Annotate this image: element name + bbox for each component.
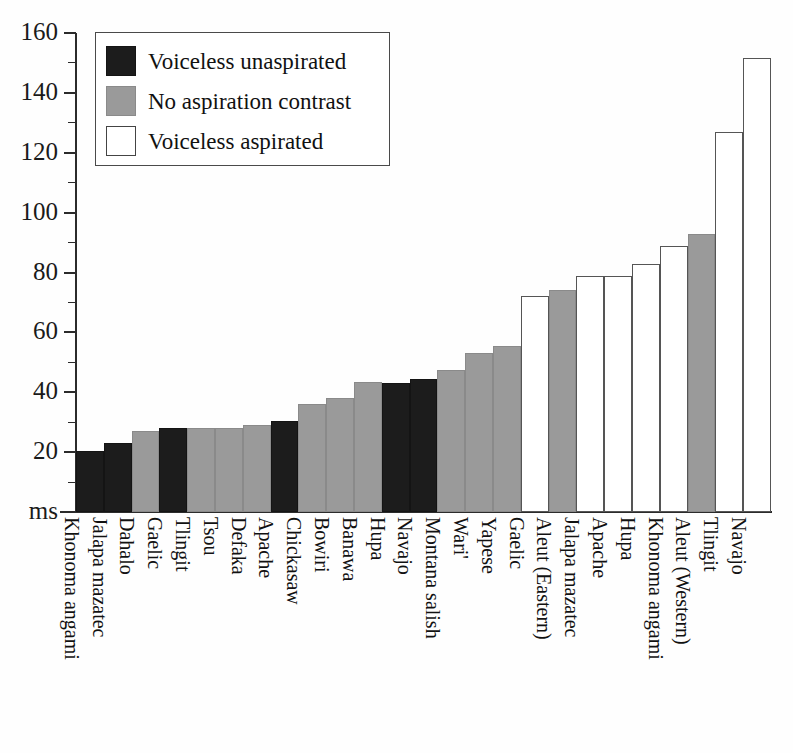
y-tick-60 <box>64 331 76 333</box>
x-axis-tick-label: Montana salish <box>423 517 443 639</box>
bar <box>326 398 354 512</box>
y-tick-label: ms <box>14 498 58 523</box>
y-tick-label: 140 <box>14 79 58 104</box>
x-axis-tick-label: Apache <box>590 517 610 578</box>
bar <box>410 379 438 512</box>
x-axis-labels: Khonoma angamiJalapa mazatecDahaloGaelic… <box>76 515 771 753</box>
bar <box>688 234 716 512</box>
bar <box>715 132 743 512</box>
bar <box>493 346 521 512</box>
y-minor-tick-110 <box>68 182 76 183</box>
x-axis-tick-label: Gaelic <box>506 517 526 569</box>
chart-figure: ms20406080100120140160 Khonoma angamiJal… <box>0 0 793 753</box>
legend-swatch-voiceless-aspirated <box>106 126 136 156</box>
bar <box>298 404 326 512</box>
x-axis-tick-label: Navajo <box>395 517 415 575</box>
y-tick-label: 40 <box>14 378 58 403</box>
bar <box>660 246 688 512</box>
y-tick-140 <box>64 92 76 94</box>
y-tick-80 <box>64 272 76 274</box>
bar <box>104 443 132 512</box>
x-axis-tick-label: Aleut (Western) <box>673 517 693 645</box>
y-tick-label: 160 <box>14 19 58 44</box>
x-axis-tick-label: Chickasaw <box>284 517 304 605</box>
bar <box>76 451 104 512</box>
y-minor-tick-90 <box>68 242 76 243</box>
legend-label: Voiceless unaspirated <box>148 50 346 73</box>
legend-item: Voiceless unaspirated <box>106 41 379 81</box>
legend-label: Voiceless aspirated <box>148 130 323 153</box>
legend-item: Voiceless aspirated <box>106 121 379 161</box>
x-axis-tick-label: Bowiri <box>312 517 332 573</box>
x-axis-tick-label: Apache <box>256 517 276 578</box>
bar <box>187 428 215 512</box>
y-axis-labels: ms20406080100120140160 <box>0 0 58 520</box>
x-axis-tick-label: Gaelic <box>145 517 165 569</box>
bar <box>354 382 382 512</box>
bar <box>382 383 410 512</box>
y-tick-100 <box>64 212 76 214</box>
x-axis-tick-label: Hupa <box>367 517 387 560</box>
bar <box>215 428 243 512</box>
x-axis-tick-label: Khonoma angami <box>645 517 665 660</box>
y-tick-120 <box>64 152 76 154</box>
x-axis-tick-label: Tlingit <box>701 517 721 571</box>
bar <box>632 264 660 512</box>
x-axis-tick-label: Tlingit <box>173 517 193 571</box>
x-axis-tick-label: Khonoma angami <box>61 517 81 660</box>
x-axis-tick-label: Hupa <box>617 517 637 560</box>
legend-swatch-voiceless-unaspirated <box>106 46 136 76</box>
y-minor-tick-70 <box>68 302 76 303</box>
y-tick-160 <box>64 32 76 34</box>
chart-legend: Voiceless unaspirated No aspiration cont… <box>95 32 390 166</box>
y-minor-tick-50 <box>68 362 76 363</box>
x-axis-tick-label: Tsou <box>200 517 220 556</box>
y-minor-tick-150 <box>68 62 76 63</box>
legend-swatch-no-aspiration-contrast <box>106 86 136 116</box>
bar <box>576 276 604 513</box>
x-axis-tick-label: Jalapa mazatec <box>89 517 109 637</box>
x-axis-tick-label: Navajo <box>729 517 749 575</box>
x-axis-tick-label: Wari' <box>451 517 471 559</box>
bar <box>271 421 299 512</box>
y-tick-label: 80 <box>14 259 58 284</box>
x-axis-tick-label: Dahalo <box>117 517 137 575</box>
y-tick-label: 100 <box>14 199 58 224</box>
y-tick-40 <box>64 391 76 393</box>
bar <box>604 276 632 513</box>
bar <box>743 58 771 512</box>
bar <box>243 425 271 512</box>
x-axis-tick-label: Jalapa mazatec <box>562 517 582 637</box>
bar <box>521 296 549 512</box>
x-axis-tick-label: Yapese <box>478 517 498 574</box>
bar <box>465 353 493 512</box>
x-label-cell: Navajo <box>743 515 771 753</box>
bar <box>549 290 577 512</box>
y-tick-20 <box>64 451 76 453</box>
y-minor-tick-130 <box>68 122 76 123</box>
y-tick-label: 20 <box>14 438 58 463</box>
bar <box>159 428 187 512</box>
x-axis-tick-label: Aleut (Eastern) <box>534 517 554 640</box>
y-minor-tick-10 <box>68 482 76 483</box>
x-axis-tick-label: Banawa <box>339 517 359 581</box>
y-minor-tick-30 <box>68 422 76 423</box>
y-tick-label: 120 <box>14 139 58 164</box>
x-axis-tick-label: Defaka <box>228 517 248 575</box>
y-tick-label: 60 <box>14 318 58 343</box>
bar <box>132 431 160 512</box>
legend-label: No aspiration contrast <box>148 90 351 113</box>
bar <box>437 370 465 512</box>
legend-item: No aspiration contrast <box>106 81 379 121</box>
